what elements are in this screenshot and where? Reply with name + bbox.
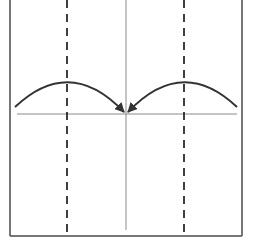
left-fold-arrow-icon — [15, 82, 124, 112]
right-fold-arrow-icon — [128, 82, 237, 112]
origami-diagram — [0, 0, 256, 243]
